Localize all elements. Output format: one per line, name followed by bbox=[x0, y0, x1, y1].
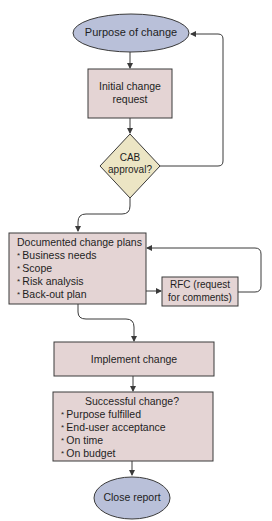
documented-plans-title: Documented change plans bbox=[17, 236, 145, 249]
start-terminal-label: Purpose of change bbox=[73, 26, 189, 39]
edge-cab-to-plans bbox=[78, 198, 130, 231]
edge-plans-to-implement bbox=[78, 304, 134, 341]
cab-approval-line1: CAB bbox=[100, 152, 160, 164]
rfc-line1: RFC (request bbox=[162, 279, 238, 292]
list-item: End-user acceptance bbox=[61, 421, 211, 434]
rfc-line2: for comments) bbox=[162, 292, 238, 305]
list-item: Scope bbox=[17, 262, 145, 275]
initial-request-label: Initial change request bbox=[88, 80, 172, 106]
list-item: Business needs bbox=[17, 249, 145, 262]
documented-plans-items: Business needs Scope Risk analysis Back-… bbox=[17, 249, 145, 301]
list-item: On budget bbox=[61, 447, 211, 460]
documented-plans-label: Documented change plans Business needs S… bbox=[17, 236, 145, 301]
list-item: Risk analysis bbox=[17, 275, 145, 288]
successful-items: Purpose fulfilled End-user acceptance On… bbox=[61, 408, 211, 460]
rfc-label: RFC (request for comments) bbox=[162, 279, 238, 304]
initial-request-line2: request bbox=[88, 93, 172, 106]
cab-approval-label: CAB approval? bbox=[100, 152, 160, 176]
successful-label: Successful change? Purpose fulfilled End… bbox=[61, 395, 211, 460]
list-item: Purpose fulfilled bbox=[61, 408, 211, 421]
list-item: On time bbox=[61, 434, 211, 447]
implement-label: Implement change bbox=[54, 353, 214, 366]
initial-request-line1: Initial change bbox=[88, 80, 172, 93]
cab-approval-line2: approval? bbox=[100, 164, 160, 176]
end-terminal-label: Close report bbox=[94, 491, 170, 504]
list-item: Back-out plan bbox=[17, 288, 145, 301]
successful-title: Successful change? bbox=[61, 395, 211, 408]
